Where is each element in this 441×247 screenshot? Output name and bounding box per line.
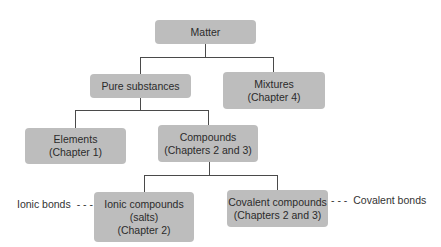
node-mixtures-label: Mixtures bbox=[254, 78, 294, 91]
node-matter: Matter bbox=[155, 20, 256, 44]
connector-to-elements bbox=[75, 110, 76, 128]
node-ionic-chapter: (Chapter 2) bbox=[117, 224, 170, 237]
node-compounds: Compounds (Chapters 2 and 3) bbox=[158, 125, 258, 162]
annotation-ionic-dash: - - - bbox=[77, 198, 93, 210]
annotation-ionic-bonds: Ionic bonds - - - bbox=[17, 198, 93, 211]
node-ionic-label: Ionic compounds bbox=[104, 198, 183, 211]
connector-compounds-down bbox=[209, 162, 210, 175]
annotation-covalent-text: Covalent bonds bbox=[353, 194, 426, 206]
node-mixtures: Mixtures (Chapter 4) bbox=[223, 72, 325, 109]
node-mixtures-chapter: (Chapter 4) bbox=[247, 91, 300, 104]
node-covalent-compounds: Covalent compounds (Chapters 2 and 3) bbox=[227, 190, 328, 227]
connector-matter-branch bbox=[140, 57, 274, 58]
connector-to-covalent bbox=[277, 175, 278, 190]
node-ionic-compounds: Ionic compounds (salts) (Chapter 2) bbox=[94, 192, 194, 242]
node-compounds-chapter: (Chapters 2 and 3) bbox=[164, 144, 252, 157]
connector-compounds-branch bbox=[144, 175, 278, 176]
annotation-covalent-dash: - - - bbox=[331, 194, 347, 206]
connector-to-mixtures bbox=[273, 57, 274, 72]
connector-to-compounds bbox=[208, 110, 209, 125]
node-covalent-label: Covalent compounds bbox=[228, 196, 327, 209]
node-pure-substances-label: Pure substances bbox=[101, 80, 179, 93]
node-matter-label: Matter bbox=[191, 26, 221, 39]
annotation-covalent-bonds: - - - Covalent bonds bbox=[331, 194, 426, 207]
connector-pure-branch bbox=[75, 110, 209, 111]
connector-to-pure-substances bbox=[140, 57, 141, 74]
node-pure-substances: Pure substances bbox=[90, 74, 191, 98]
node-elements-chapter: (Chapter 1) bbox=[49, 146, 102, 159]
node-ionic-subtitle: (salts) bbox=[130, 211, 159, 224]
annotation-ionic-text: Ionic bonds bbox=[17, 198, 71, 210]
node-elements: Elements (Chapter 1) bbox=[25, 128, 126, 164]
connector-matter-down bbox=[205, 44, 206, 57]
connector-pure-down bbox=[140, 98, 141, 110]
node-elements-label: Elements bbox=[54, 133, 98, 146]
node-compounds-label: Compounds bbox=[180, 131, 237, 144]
connector-to-ionic bbox=[144, 175, 145, 192]
node-covalent-chapter: (Chapters 2 and 3) bbox=[234, 209, 322, 222]
